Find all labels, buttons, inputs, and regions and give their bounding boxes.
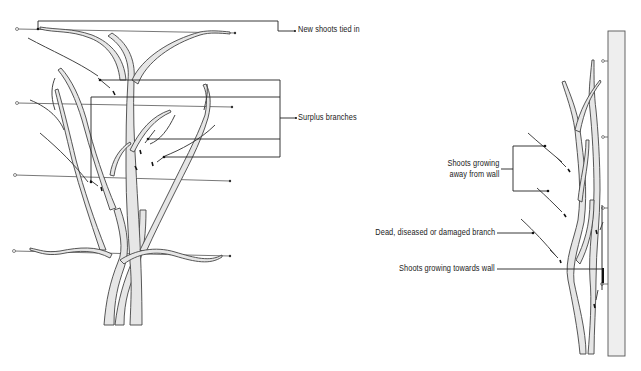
label-away-line1: Shoots growing [447, 158, 499, 169]
label-away-line2: away from wall [447, 169, 499, 180]
label-shoots-away-from-wall: Shoots growing away from wall [447, 158, 499, 180]
wall [608, 31, 625, 356]
label-shoots-towards-wall: Shoots growing towards wall [399, 263, 495, 274]
label-dead-diseased-damaged: Dead, diseased or damaged branch [375, 227, 495, 238]
surplus-branches-leader [90, 79, 297, 184]
label-new-shoots-tied-in: New shoots tied in [298, 24, 360, 35]
pruning-diagram [0, 0, 641, 371]
left-shrub-diagram [13, 21, 298, 325]
label-surplus-branches: Surplus branches [298, 112, 357, 123]
right-wall-diagram [497, 31, 625, 356]
